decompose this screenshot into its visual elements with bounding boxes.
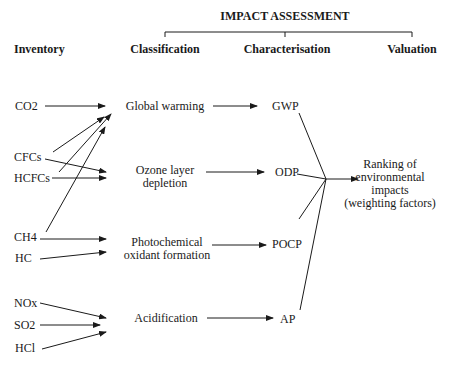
column-classification: Classification	[130, 43, 199, 56]
class-ozone-line2: depletion	[143, 177, 188, 190]
class-acidification: Acidification	[134, 312, 197, 325]
inventory-hc: HC	[15, 252, 32, 265]
impact-bracket	[165, 32, 412, 37]
inventory-so2: SO2	[14, 319, 35, 332]
impact-assessment-title: IMPACT ASSESSMENT	[220, 10, 349, 23]
inventory-nox: NOx	[14, 297, 37, 310]
char-odp: ODP	[275, 166, 299, 179]
char-ap: AP	[280, 313, 295, 326]
column-characterisation: Characterisation	[244, 43, 331, 56]
column-inventory: Inventory	[14, 43, 65, 56]
column-valuation: Valuation	[387, 43, 437, 56]
char-pocp: POCP	[272, 238, 302, 251]
inventory-hcl: HCl	[15, 342, 35, 355]
class-photo-line2: oxidant formation	[124, 249, 210, 262]
class-global-warming: Global warming	[126, 100, 204, 113]
valuation-line4: (weighting factors)	[344, 197, 436, 210]
char-gwp: GWP	[272, 100, 299, 113]
inventory-co2: CO2	[15, 100, 38, 113]
inventory-ch4: CH4	[14, 231, 37, 244]
inventory-hcfcs: HCFCs	[14, 172, 50, 185]
inventory-cfcs: CFCs	[14, 151, 41, 164]
